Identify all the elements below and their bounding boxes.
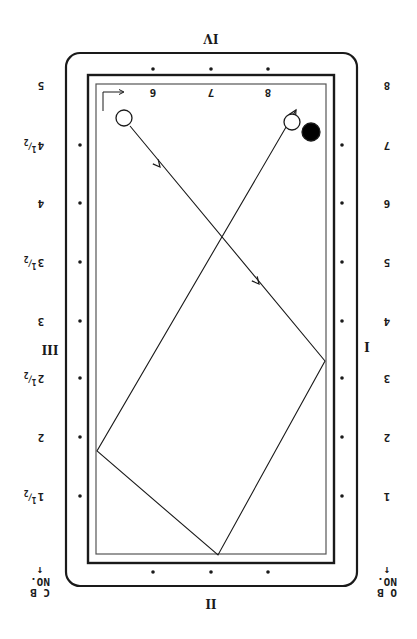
left-scale-label: 3 [38,315,45,328]
right-scale-label: 7 [384,139,391,152]
right-scale-label: 2 [384,431,391,444]
left-scale-label: 2 [38,431,45,444]
cue-ball [116,110,132,126]
diamond-marker [78,494,82,498]
top-scale-label: 7 [208,86,215,99]
direction-corner-arrow-icon [103,90,124,112]
right-scale-label: 6 [383,197,390,210]
left-scale-label: 5 [38,79,45,92]
diamond-marker [151,570,155,574]
right-scale-label: 5 [384,256,391,269]
trajectory-arrows [153,110,296,284]
object-ball-black [302,123,320,141]
balls [116,110,320,141]
rail-label-top: IV [203,31,219,45]
left-scale-fraction-den: 2 [23,370,28,379]
left-scale-label: 2 [38,372,45,385]
diamond-marker [340,435,344,439]
rail-label-right: I [364,339,370,353]
rail-label-bottom: II [205,596,217,610]
right-scale-label: 1 [383,490,390,503]
diamond-marker [209,570,213,574]
arrowhead-icon [153,159,160,167]
cb-label: C B [30,586,50,599]
right-scale-label: 8 [384,79,391,92]
top-scale-label: 8 [265,86,272,99]
object-ball-white [284,114,300,130]
left-scale-label: 4 [37,139,44,152]
diamond-marker [78,201,82,205]
diamond-marker [78,319,82,323]
diamond-marker [266,570,270,574]
diamond-marker [340,201,344,205]
diamond-marker [151,67,155,71]
right-scale-label: 4 [383,315,390,328]
diamond-marker [340,260,344,264]
right-scale-label: 3 [384,372,391,385]
ob-label: O B [377,586,397,599]
diamond-marker [78,143,82,147]
diamond-marker [78,435,82,439]
diamond-marker [340,143,344,147]
left-scale-fraction-den: 2 [23,137,28,146]
play-area [96,84,326,554]
diamond-marker [266,67,270,71]
left-scale-label: 3 [38,256,45,269]
billiards-diagram: 541/2431/2321/2211/287654321678IVIIIIII↑… [0,0,417,639]
rail-diamonds [78,67,344,574]
diamond-marker [340,376,344,380]
diamond-marker [209,67,213,71]
cushion-border [88,75,334,563]
rail-label-left: III [41,342,58,356]
diamond-marker [78,260,82,264]
diamond-marker [78,376,82,380]
left-scale-label: 4 [37,197,44,210]
top-scale-label: 6 [149,86,156,99]
cue-ball-trajectory [97,110,325,555]
left-scale-fraction-den: 2 [23,488,28,497]
left-scale-fraction-den: 2 [23,254,28,263]
diamond-marker [340,494,344,498]
diamond-marker [340,319,344,323]
left-scale-label: 1 [37,490,44,503]
